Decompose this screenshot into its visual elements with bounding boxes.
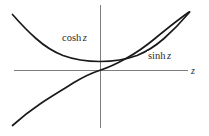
cosh-label-function: cosh [62,32,81,43]
hyperbolic-functions-figure: coshz sinhz z [0,0,209,136]
cosh-curve-label: coshz [61,33,88,44]
sinh-label-variable: z [166,50,172,61]
horizontal-axis-label: z [190,66,196,76]
plot-canvas [0,0,209,136]
cosh-label-variable: z [81,32,87,43]
sinh-curve-label: sinhz [147,51,172,62]
sinh-label-function: sinh [148,50,166,61]
